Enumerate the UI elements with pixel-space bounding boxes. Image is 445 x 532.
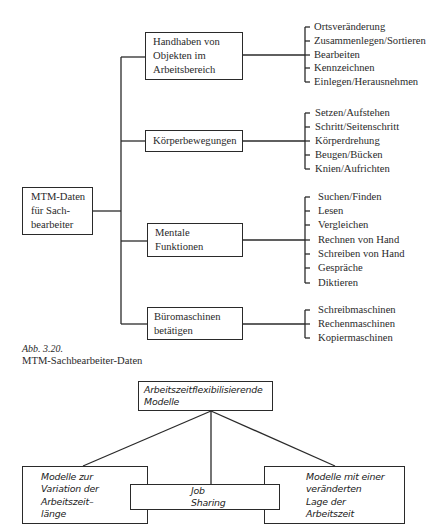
branch-box-bueromaschinen: Büromaschinen betätigen	[147, 307, 243, 340]
leaf-item: Körperdrehung	[315, 135, 380, 147]
leaf-item: Rechenmaschinen	[318, 318, 395, 330]
center-box-job-sharing: Job Sharing	[130, 484, 280, 510]
right-box-veraenderte-lage: Modelle mit einer veränderten Lage der A…	[264, 466, 405, 524]
branch-label-koerperbewegungen: Körperbewegungen	[153, 134, 237, 148]
leaf-item: Einlegen/Herausnehmen	[314, 76, 418, 88]
leaf-item: Suchen/Finden	[318, 191, 382, 203]
branch-label-mentale: Mentale Funktionen	[155, 226, 203, 254]
leaf-item: Schreibmaschinen	[318, 304, 396, 316]
leaf-item: Beugen/Bücken	[315, 149, 383, 161]
leaf-item: Zusammenlegen/Sortieren	[314, 35, 426, 47]
figure-caption: MTM-Sachbearbeiter-Daten	[22, 355, 142, 366]
leaf-item: Vergleichen	[318, 219, 368, 231]
top-box-label: Arbeitszeitflexibilisierende Modelle	[144, 384, 263, 409]
top-box-arbeitszeitflexibilisierende: Arbeitszeitflexibilisierende Modelle	[138, 381, 273, 411]
leaf-item: Schreiben von Hand	[318, 248, 405, 260]
leaf-item: Kopiermaschinen	[318, 332, 393, 344]
leaf-item: Lesen	[318, 205, 343, 217]
leaf-item: Setzen/Aufstehen	[315, 107, 390, 119]
branch-box-handhaben: Handhaben von Objekten im Arbeitsbereich	[145, 32, 243, 80]
branch-label-bueromaschinen: Büromaschinen betätigen	[154, 310, 221, 338]
root-box-mtm-daten: MTM-Daten für Sach- bearbeiter	[22, 187, 93, 235]
leaf-item: Ortsveränderung	[314, 21, 385, 33]
branch-box-koerperbewegungen: Körperbewegungen	[145, 130, 243, 152]
branch-label-handhaben: Handhaben von Objekten im Arbeitsbereich	[153, 35, 220, 77]
leaf-item: Schritt/Seitenschritt	[315, 121, 399, 133]
root-label: MTM-Daten für Sach- bearbeiter	[31, 190, 85, 232]
branch-box-mentale-funktionen: Mentale Funktionen	[147, 223, 243, 257]
leaf-item: Rechnen von Hand	[318, 234, 399, 246]
figure-number: Abb. 3.20.	[22, 343, 63, 354]
figure-page: MTM-Daten für Sach- bearbeiter Handhaben…	[0, 0, 445, 532]
leaf-item: Kennzeichnen	[314, 62, 375, 74]
leaf-item: Gespräche	[318, 262, 363, 274]
leaf-item: Bearbeiten	[314, 49, 360, 61]
right-box-label: Modelle mit einer veränderten Lage der A…	[306, 471, 384, 521]
leaf-item: Diktieren	[318, 277, 358, 289]
leaf-item: Knien/Aufrichten	[315, 163, 390, 175]
left-box-label: Modelle zur Variation der Arbeitszeit– l…	[41, 471, 99, 521]
center-box-label: Job Sharing	[191, 485, 226, 510]
